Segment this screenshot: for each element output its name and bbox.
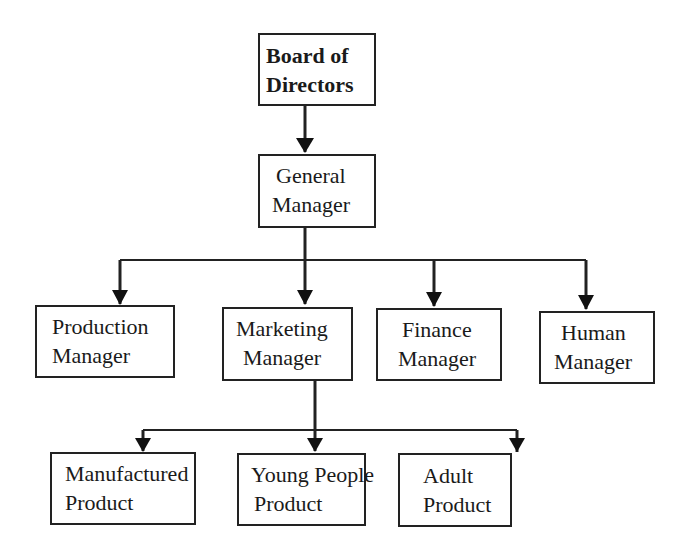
node-label-line1: General — [276, 161, 374, 190]
node-label-line1: Finance — [402, 315, 500, 344]
node-marketing-manager: Marketing Manager — [222, 307, 353, 381]
node-label-line1: Adult — [423, 461, 510, 490]
node-label-line1: Marketing — [236, 314, 351, 343]
node-label-line2: Manager — [272, 190, 374, 219]
node-label-line2: Manager — [52, 341, 173, 370]
node-label-line2: Manager — [398, 344, 500, 373]
node-manufactured-product: Manufactured Product — [50, 452, 196, 525]
node-young-people-product: Young People Product — [237, 453, 366, 526]
node-label-line1: Board of — [266, 41, 374, 70]
node-label-line2: Manager — [243, 343, 351, 372]
node-label-line2: Product — [254, 489, 364, 518]
node-label-line1: Production — [52, 312, 173, 341]
node-label-line2: Directors — [266, 70, 374, 99]
node-label-line1: Human — [561, 318, 653, 347]
node-label-line2: Manager — [554, 347, 653, 376]
node-human-manager: Human Manager — [539, 311, 655, 384]
node-adult-product: Adult Product — [398, 453, 512, 527]
node-board-of-directors: Board of Directors — [258, 33, 376, 106]
node-label-line1: Young People — [251, 460, 364, 489]
node-label-line2: Product — [65, 488, 194, 517]
node-general-manager: General Manager — [258, 154, 376, 228]
node-label-line2: Product — [423, 490, 510, 519]
node-finance-manager: Finance Manager — [376, 308, 502, 381]
node-label-line1: Manufactured — [65, 459, 194, 488]
node-production-manager: Production Manager — [35, 305, 175, 378]
